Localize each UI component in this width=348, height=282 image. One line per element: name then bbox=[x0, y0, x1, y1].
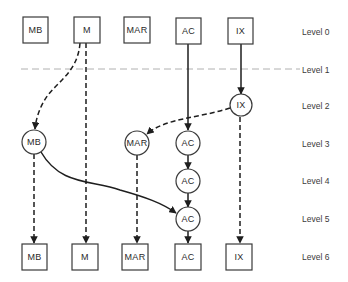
node-box-mar-bottom: MAR bbox=[122, 244, 148, 270]
circle-nodes: IX MB MAR AC AC AC bbox=[22, 94, 252, 231]
level-label-1: Level 1 bbox=[302, 65, 330, 75]
bottom-boxes: MB M MAR AC IX bbox=[22, 244, 252, 270]
node-label: MB bbox=[27, 252, 41, 262]
node-label: IX bbox=[236, 26, 245, 36]
top-boxes: MB M MAR AC IX bbox=[23, 17, 253, 44]
node-label: IX bbox=[236, 100, 245, 110]
dataflow-diagram: MB M MAR AC IX IX MB MAR bbox=[0, 0, 348, 282]
level-label-0: Level 0 bbox=[302, 27, 330, 37]
level-label-5: Level 5 bbox=[302, 214, 330, 224]
node-label: MAR bbox=[127, 138, 148, 148]
node-label: IX bbox=[234, 252, 243, 262]
node-circle-ac-l4: AC bbox=[176, 169, 200, 193]
node-label: AC bbox=[181, 138, 194, 148]
level-label-6: Level 6 bbox=[302, 252, 330, 262]
node-label: AC bbox=[181, 176, 194, 186]
node-box-ix-top: IX bbox=[228, 18, 253, 44]
node-label: MB bbox=[28, 25, 42, 35]
node-label: MAR bbox=[127, 25, 148, 35]
node-circle-ac-l5: AC bbox=[176, 207, 200, 231]
node-box-mb-top: MB bbox=[23, 17, 48, 43]
node-label: MB bbox=[27, 137, 41, 147]
level-label-3: Level 3 bbox=[302, 139, 330, 149]
edge-mb-to-ac-l5 bbox=[41, 152, 176, 213]
level-label-2: Level 2 bbox=[302, 101, 330, 111]
node-box-m-top: M bbox=[74, 17, 100, 43]
node-circle-ix-l2: IX bbox=[230, 94, 252, 116]
node-label: M bbox=[83, 25, 91, 35]
node-box-ac-top: AC bbox=[176, 18, 201, 44]
node-label: AC bbox=[181, 214, 194, 224]
level-labels: Level 0 Level 1 Level 2 Level 3 Level 4 … bbox=[302, 27, 330, 262]
node-circle-mar-l3: MAR bbox=[125, 131, 149, 155]
node-box-mar-top: MAR bbox=[124, 17, 150, 43]
node-box-m-bottom: M bbox=[72, 244, 98, 270]
node-label: MAR bbox=[125, 252, 146, 262]
node-label: AC bbox=[182, 26, 195, 36]
node-box-mb-bottom: MB bbox=[22, 244, 47, 270]
node-circle-mb-l3: MB bbox=[22, 130, 46, 154]
node-circle-ac-l3: AC bbox=[176, 131, 200, 155]
node-label: AC bbox=[181, 252, 194, 262]
node-label: M bbox=[81, 252, 89, 262]
node-box-ac-bottom: AC bbox=[175, 244, 201, 270]
level-label-4: Level 4 bbox=[302, 176, 330, 186]
node-box-ix-bottom: IX bbox=[226, 244, 252, 270]
edge-m-to-mb bbox=[35, 43, 80, 129]
